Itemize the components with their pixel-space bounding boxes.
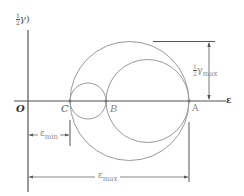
arrow-left-icon xyxy=(29,134,33,137)
arrow-right-icon xyxy=(65,134,69,137)
point-b-label: B xyxy=(110,104,117,114)
arrow-up-icon xyxy=(207,42,210,47)
eps-min-label: εmin xyxy=(40,129,58,141)
eps-max-label: εmax xyxy=(98,171,117,183)
arrow-down-icon xyxy=(207,95,210,100)
point-a xyxy=(187,99,190,102)
point-a-label: A xyxy=(192,104,199,113)
paren: ) xyxy=(26,13,30,24)
origin-label: O xyxy=(16,104,25,114)
subscript: min xyxy=(45,133,58,141)
point-c-label: C xyxy=(61,104,69,114)
arrow-left-icon xyxy=(29,176,33,179)
subscript: max xyxy=(103,175,118,183)
arrow-right-icon xyxy=(184,176,188,179)
epsilon-axis-label: ε xyxy=(226,96,231,105)
gamma-axis-label: 12γ) xyxy=(16,13,30,26)
mohr-circle-diagram xyxy=(0,0,244,196)
gamma-max-label: 12γmax xyxy=(193,64,218,78)
subscript: max xyxy=(203,70,218,78)
point-b xyxy=(104,99,107,102)
